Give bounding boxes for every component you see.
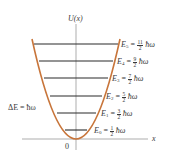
label-e4: E4 = 92 ħω: [117, 57, 148, 68]
x-axis-label-text: x: [152, 134, 156, 143]
y-axis-label: U(x): [68, 15, 83, 23]
label-e3: E3 = 72 ħω: [112, 74, 143, 85]
origin-label: 0: [65, 143, 69, 151]
label-e1: E1 = 32 ħω: [101, 109, 132, 120]
y-axis-label-text: U(x): [68, 14, 83, 23]
label-e5: E5 = 112 ħω: [121, 40, 155, 51]
label-e0: E0 = 12 ħω: [94, 126, 125, 137]
label-e2: E2 = 52 ħω: [106, 92, 137, 103]
x-axis-label: x: [152, 135, 156, 143]
spacing-label: ΔE = ħω: [8, 104, 36, 112]
oscillator-diagram: [0, 0, 170, 155]
